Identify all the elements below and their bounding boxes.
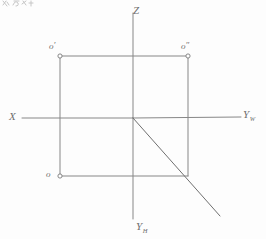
point-marker-o-front xyxy=(58,54,62,58)
point-label-o-front-text: o xyxy=(49,41,54,51)
point-label-o-side: o″ xyxy=(181,42,190,51)
point-label-o-front: o′ xyxy=(49,42,56,51)
x-axis-label: X xyxy=(9,111,16,122)
z-axis-label-text: Z xyxy=(133,4,139,16)
drawing-sheet: Z X YW YH o′ o″ o xyxy=(0,0,266,239)
yw-axis-label-subscript: W xyxy=(250,115,256,122)
point-marker-o-side xyxy=(186,54,190,58)
bisector-diagonal-line xyxy=(133,118,220,216)
point-label-o-side-text: o xyxy=(181,41,186,51)
yw-axis-label-text: Y xyxy=(243,108,249,120)
yh-axis-label-text: Y xyxy=(136,220,142,232)
yw-axis-label: YW xyxy=(243,109,255,120)
point-marker-o-top xyxy=(58,174,62,178)
projection-axes-drawing xyxy=(0,0,266,239)
point-label-o-side-prime: ″ xyxy=(186,40,190,50)
z-axis-label: Z xyxy=(133,5,139,16)
yh-axis-label: YH xyxy=(136,221,147,232)
point-label-o-top-text: o xyxy=(46,169,51,179)
yh-axis-label-subscript: H xyxy=(143,227,148,234)
x-axis-label-text: X xyxy=(9,110,16,122)
yw-axis-line xyxy=(133,117,241,118)
point-label-o-top: o xyxy=(46,170,51,179)
